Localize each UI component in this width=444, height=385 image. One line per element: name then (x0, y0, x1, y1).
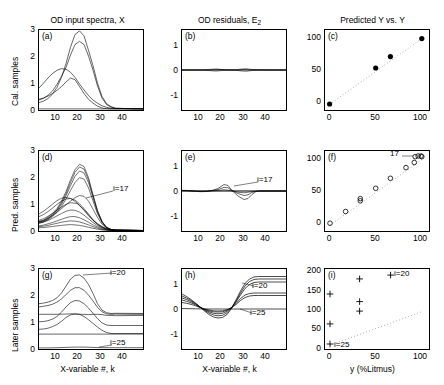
panel-i-ytick-0: 0 (296, 343, 321, 353)
panel-b-xtick-20: 20 (213, 112, 227, 122)
panel-a-ytick-3: 3 (22, 24, 35, 34)
panel-a-axes (38, 29, 144, 111)
panel-a-ytick-1: 1 (22, 78, 35, 88)
panel-h-xtick-30: 30 (236, 351, 250, 361)
xlabel-col3: y (%Litmus) (315, 364, 430, 374)
panel-c-xtick-50: 50 (368, 112, 382, 122)
panel-a-xtick-40: 40 (115, 112, 129, 122)
panel-e-ytick-1: 1 (165, 161, 178, 171)
panel-f-ytick-100: 100 (298, 153, 321, 163)
panel-h-annotation-i20: i=20 (252, 281, 267, 290)
panel-g-xtick-20: 20 (70, 351, 84, 361)
panel-f-xtick-0: 0 (322, 233, 336, 243)
panel-d-annotation-i17: i=17 (113, 184, 128, 193)
panel-i-ytick-200: 200 (296, 265, 321, 275)
panel-label-a: (a) (42, 31, 52, 41)
panel-g-xtick-30: 30 (93, 351, 107, 361)
panel-f-ytick-50: 50 (298, 185, 321, 195)
panel-i-annotation-i25: i=25 (334, 340, 349, 349)
panel-a-xtick-30: 30 (93, 112, 107, 122)
panel-e-xtick-10: 10 (191, 233, 205, 243)
panel-e-ytick-m1: -1 (161, 211, 178, 221)
panel-g-ytick-0: 0 (22, 344, 35, 354)
panel-d-ytick-2: 2 (22, 172, 35, 182)
panel-label-g: (g) (42, 270, 52, 280)
panel-g-annotation-i25: i=25 (110, 338, 125, 347)
panel-g-leader-line-top (83, 273, 112, 275)
panel-d-ytick-0: 0 (22, 226, 35, 236)
panel-h-xtick-10: 10 (191, 351, 205, 361)
panel-h-annotation-i25: i=25 (250, 308, 265, 317)
panel-label-d: (d) (42, 152, 52, 162)
xlabel-col2: X-variable #, k (172, 364, 287, 374)
panel-i-ytick-50: 50 (296, 323, 321, 333)
panel-f-axes (324, 150, 430, 232)
panel-a-ytick-0: 0 (22, 105, 35, 115)
panel-i-ytick-150: 150 (296, 285, 321, 295)
panel-f-plot (325, 151, 429, 231)
panel-c-markers (327, 36, 424, 107)
panel-b-xtick-40: 40 (258, 112, 272, 122)
panel-g-ytick-1: 1 (22, 317, 35, 327)
panel-f-xtick-100: 100 (411, 233, 429, 243)
panel-e-xtick-40: 40 (258, 233, 272, 243)
panel-i-xtick-50: 50 (368, 351, 382, 361)
panel-e-xtick-30: 30 (236, 233, 250, 243)
ylabel-row3: Later samples (10, 299, 20, 352)
panel-g-ytick-2: 2 (22, 290, 35, 300)
panel-e-leader-line (234, 182, 258, 186)
panel-b-axes (181, 29, 287, 111)
panel-g-plot (39, 269, 143, 349)
panel-a-plot (39, 30, 143, 110)
panel-e-xtick-20: 20 (213, 233, 227, 243)
panel-b-ytick-1: 1 (165, 40, 178, 50)
panel-i-plot (325, 269, 429, 349)
panel-i-xtick-100: 100 (411, 351, 429, 361)
panel-e-plot (182, 151, 286, 231)
panel-c-xtick-0: 0 (322, 112, 336, 122)
panel-h-xtick-20: 20 (213, 351, 227, 361)
column-title-1: OD input spectra, X (30, 15, 145, 25)
panel-h-ytick-1: 1 (165, 279, 178, 289)
panel-a-xtick-20: 20 (70, 112, 84, 122)
panel-label-e: (e) (185, 152, 195, 162)
panel-f-annotation-17: 17 (390, 149, 399, 158)
panel-label-c: (c) (328, 31, 338, 41)
panel-i-xtick-0: 0 (322, 351, 336, 361)
panel-g-annotation-i20: i=20 (110, 268, 125, 277)
panel-d-xtick-40: 40 (115, 233, 129, 243)
panel-label-i: (i) (328, 270, 336, 280)
panel-h-ytick-m1: -1 (161, 329, 178, 339)
panel-b-ytick-m1: -1 (161, 90, 178, 100)
panel-b-xtick-30: 30 (236, 112, 250, 122)
panel-a-ytick-2: 2 (22, 51, 35, 61)
panel-f-xtick-50: 50 (368, 233, 382, 243)
panel-d-xtick-30: 30 (93, 233, 107, 243)
panel-i-axes (324, 268, 430, 350)
panel-i-annotation-i20: i=20 (394, 269, 409, 278)
panel-h-plot (182, 269, 286, 349)
xlabel-col1: X-variable #, k (30, 364, 145, 374)
figure-root: OD input spectra, X OD residuals, E2 Pre… (0, 0, 444, 385)
panel-i-markers (327, 272, 394, 348)
panel-d-xtick-20: 20 (70, 233, 84, 243)
panel-d-ytick-1: 1 (22, 199, 35, 209)
panel-c-ytick-0: 0 (298, 96, 321, 106)
column-title-3: Predicted Y vs. Y (315, 15, 430, 25)
panel-h-xtick-40: 40 (258, 351, 272, 361)
panel-f-markers (328, 154, 424, 226)
panel-d-xtick-10: 10 (48, 233, 62, 243)
panel-c-ytick-100: 100 (298, 32, 321, 42)
panel-label-f: (f) (328, 152, 336, 162)
panel-c-plot (325, 30, 429, 110)
panel-d-ytick-3: 3 (22, 145, 35, 155)
ylabel-row1: Cal. samples (10, 57, 20, 106)
column-title-2: OD residuals, E2 (172, 15, 287, 26)
panel-e-annotation-i17: i=17 (257, 175, 272, 184)
ylabel-row2: Pred. samples (10, 178, 20, 232)
panel-h-ytick-0: 0 (165, 304, 178, 314)
panel-a-xtick-10: 10 (48, 112, 62, 122)
panel-h-axes (181, 268, 287, 350)
panel-g-ytick-3: 3 (22, 263, 35, 273)
panel-c-xtick-100: 100 (411, 112, 429, 122)
